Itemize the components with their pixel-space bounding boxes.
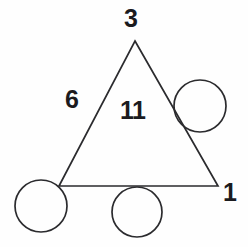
circle-upper-right <box>174 80 226 132</box>
circle-bottom-left <box>15 180 67 232</box>
circle-bottom-center <box>112 187 162 237</box>
label-top-vertex: 3 <box>124 6 137 31</box>
label-left-edge: 6 <box>65 87 78 112</box>
label-interior: 11 <box>120 98 145 123</box>
label-bottom-right-vertex: 1 <box>223 180 236 205</box>
figure-canvas: 3 6 11 1 <box>0 0 248 247</box>
